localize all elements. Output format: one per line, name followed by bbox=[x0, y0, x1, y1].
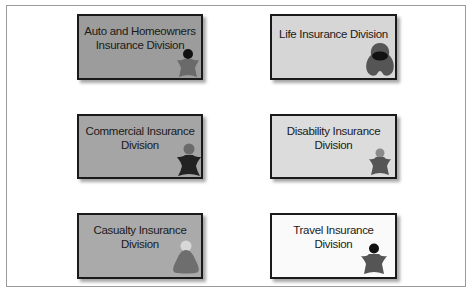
division-label-line1: Commercial Insurance bbox=[83, 124, 197, 138]
division-label: Life Insurance Division bbox=[272, 27, 395, 41]
auto-homeowners-division-box: Auto and Homeowners Insurance Division bbox=[77, 14, 203, 80]
division-label-line1: Casualty Insurance bbox=[83, 223, 197, 237]
travel-division-box: Travel Insurance Division bbox=[270, 213, 397, 279]
hooded-figure-icon bbox=[364, 41, 396, 79]
division-label-line1: Travel Insurance bbox=[276, 223, 391, 237]
disability-division-box: Disability Insurance Division bbox=[270, 114, 397, 179]
life-division-box: Life Insurance Division bbox=[270, 14, 397, 80]
division-label-line1: Auto and Homeowners bbox=[83, 24, 197, 38]
person-star-icon bbox=[175, 48, 201, 78]
person-star-icon bbox=[368, 148, 392, 176]
person-star-icon bbox=[175, 143, 203, 177]
division-label-line1: Life Insurance Division bbox=[276, 27, 391, 41]
casualty-division-box: Casualty Insurance Division bbox=[77, 213, 203, 279]
division-label-line1: Disability Insurance bbox=[276, 124, 391, 138]
cone-figure-icon bbox=[171, 239, 201, 275]
commercial-division-box: Commercial Insurance Division bbox=[77, 114, 203, 179]
diagram-frame bbox=[6, 5, 466, 287]
person-star-icon bbox=[360, 243, 388, 275]
